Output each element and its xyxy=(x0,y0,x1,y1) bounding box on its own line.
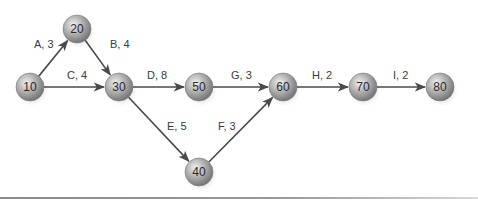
node-80: 80 xyxy=(426,73,458,106)
node-label: 50 xyxy=(192,80,206,94)
node-label: 10 xyxy=(23,80,37,94)
network-diagram: 1020304050607080 A, 3B, 4C, 4D, 8E, 5F, … xyxy=(0,0,478,200)
edge-label-e: E, 5 xyxy=(167,120,187,132)
edge-label-g: G, 3 xyxy=(231,69,252,81)
node-label: 70 xyxy=(356,80,370,94)
node-label: 80 xyxy=(433,80,447,94)
edge-label-a: A, 3 xyxy=(34,38,54,50)
node-label: 20 xyxy=(70,22,84,36)
node-50: 50 xyxy=(185,73,217,106)
edge-label-f: F, 3 xyxy=(218,120,236,132)
node-60: 60 xyxy=(269,73,301,106)
edge-label-i: I, 2 xyxy=(393,69,408,81)
node-30: 30 xyxy=(105,73,137,106)
node-label: 60 xyxy=(276,80,290,94)
edge-label-h: H, 2 xyxy=(312,69,332,81)
node-20: 20 xyxy=(63,15,95,48)
node-label: 30 xyxy=(112,80,126,94)
bottom-divider xyxy=(0,197,478,199)
edge-label-d: D, 8 xyxy=(147,69,167,81)
edge-label-c: C, 4 xyxy=(67,69,87,81)
edge-b-arrow xyxy=(85,40,110,75)
edge-label-b: B, 4 xyxy=(110,38,130,50)
node-70: 70 xyxy=(349,73,381,106)
node-10: 10 xyxy=(16,73,48,106)
nodes-layer: 1020304050607080 xyxy=(16,15,458,191)
node-label: 40 xyxy=(192,165,206,179)
node-40: 40 xyxy=(185,158,217,191)
